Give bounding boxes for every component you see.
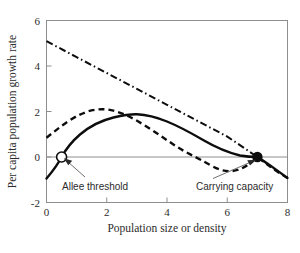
x-tickmarks [47, 198, 288, 203]
y-tick-label-6: 6 [35, 15, 41, 27]
y-tick-label-2: 2 [35, 106, 41, 118]
allee-threshold-label: Allee threshold [62, 181, 128, 192]
carrying-capacity-label: Carrying capacity [196, 181, 273, 192]
curve-strong-allee-effect [47, 114, 288, 178]
y-tick-label-minus-2: -2 [31, 197, 40, 209]
x-tick-label-4: 4 [164, 206, 170, 218]
y-tick-label-4: 4 [35, 60, 41, 72]
carrying-capacity-leader [213, 160, 256, 179]
x-tick-label-2: 2 [104, 206, 110, 218]
allee-threshold-marker [57, 152, 67, 162]
x-tick-label-6: 6 [225, 206, 231, 218]
chart-figure: Allee threshold Carrying capacity 6 4 2 … [0, 0, 300, 253]
y-tick-label-0: 0 [35, 151, 41, 163]
x-axis-title: Population size or density [107, 222, 226, 235]
x-tick-label-0: 0 [44, 206, 50, 218]
y-axis-title: Per capita population growth rate [6, 35, 19, 188]
curve-weak-allee-effect [47, 109, 288, 178]
allee-threshold-leader [64, 158, 85, 177]
x-tick-label-8: 8 [285, 206, 291, 218]
chart-canvas: Allee threshold Carrying capacity 6 4 2 … [0, 0, 300, 253]
